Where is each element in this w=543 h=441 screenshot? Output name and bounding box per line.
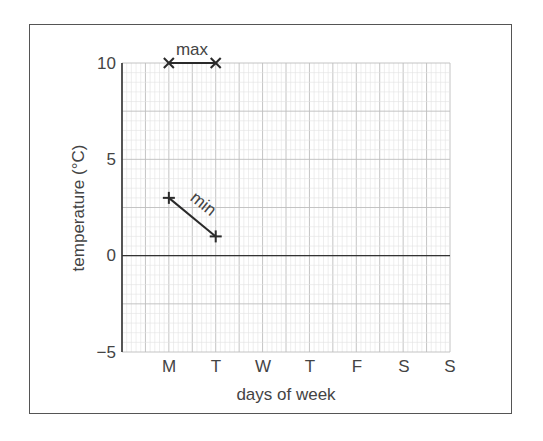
grid	[122, 63, 450, 352]
ytick-10: 10	[97, 54, 116, 73]
xtick-fri: F	[352, 357, 362, 376]
y-axis-title: temperature (°C)	[69, 145, 88, 272]
ytick-0: 0	[107, 246, 116, 265]
series-label-min: min	[187, 188, 220, 220]
ytick-5: 5	[107, 150, 116, 169]
xtick-thu: T	[305, 357, 315, 376]
x-axis-title: days of week	[236, 385, 336, 404]
xtick-wed: W	[255, 357, 271, 376]
xtick-mon: M	[162, 357, 176, 376]
series-label-max: max	[176, 40, 209, 59]
chart-canvas: 10 5 0 −5 M T W T F S S days of week tem…	[0, 0, 543, 441]
xtick-tue: T	[211, 357, 221, 376]
xtick-sun: S	[444, 357, 455, 376]
xtick-sat: S	[398, 357, 409, 376]
ytick-neg5: −5	[97, 343, 116, 362]
